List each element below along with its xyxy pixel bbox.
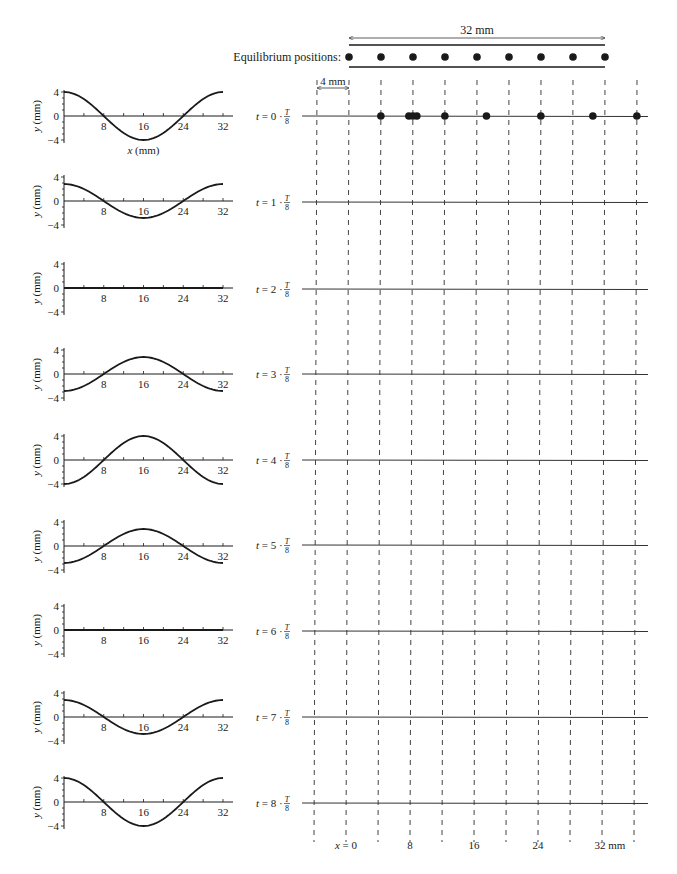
fraction-denominator: 8: [285, 290, 289, 299]
y-axis-label: y (mm): [30, 530, 43, 563]
y-tick-label: 0: [54, 195, 60, 207]
x-tick-label: 24: [178, 806, 190, 818]
x-tick-label: 24: [178, 292, 190, 304]
x-axis-label: x (mm): [126, 144, 159, 157]
x-tick-label: 32: [218, 292, 229, 304]
x-tick-label: 32: [218, 378, 229, 390]
x-tick-label: 32: [218, 634, 229, 646]
dashed-guide-line: [474, 80, 477, 842]
x-tick-label: 32: [218, 205, 229, 217]
dashed-guide-line: [314, 80, 317, 842]
wave-plots: 40−48162432y (mm)x (mm)40−48162432y (mm)…: [30, 86, 233, 832]
x-tick-label: 8: [101, 806, 107, 818]
y-axis-label: y (mm): [30, 100, 43, 133]
y-axis-label: y (mm): [30, 272, 43, 305]
wave-diagram: 32 mmEquilibrium positions:4 mm t = 0 · …: [0, 0, 677, 874]
fraction-numerator: T: [285, 709, 290, 718]
y-tick-label: 4: [54, 772, 60, 784]
bottom-axis-label: 32 mm: [595, 839, 626, 851]
time-rows: t = 0 · T8t = 1 · T8t = 2 · T8t = 3 · T8…: [256, 108, 648, 813]
fraction-denominator: 8: [285, 203, 289, 212]
time-label: t = 3 ·: [256, 368, 283, 380]
equilibrium-dot: [441, 53, 449, 61]
time-label: t = 2 ·: [256, 283, 283, 295]
time-label: t = 7 ·: [256, 711, 283, 723]
time-row-1: t = 1 · T8: [256, 194, 648, 212]
row-baseline: [302, 717, 648, 718]
fraction-denominator: 8: [285, 546, 289, 555]
x-tick-label: 32: [218, 550, 229, 562]
row-baseline: [302, 289, 648, 290]
dashed-guide-line: [506, 80, 509, 842]
x-tick-label: 8: [101, 550, 107, 562]
spacing-label: 4 mm: [320, 75, 346, 87]
fraction-denominator: 8: [285, 117, 289, 126]
y-axis-label: y (mm): [30, 786, 43, 819]
time-label: t = 1 ·: [256, 196, 283, 208]
equilibrium-label: Equilibrium positions:: [233, 50, 341, 64]
y-tick-label: 0: [54, 110, 60, 122]
x-tick-label: 24: [178, 634, 190, 646]
y-tick-label: 4: [54, 344, 60, 356]
y-tick-label: 0: [54, 282, 60, 294]
wave-plot-0: 40−48162432y (mm)x (mm): [30, 86, 233, 157]
dashed-guide-line: [634, 80, 637, 842]
wave-plot-3: 40−48162432y (mm): [30, 344, 233, 404]
y-axis-label: y (mm): [30, 614, 43, 647]
length-label: 32 mm: [460, 23, 494, 37]
wave-plot-4: 40−48162432y (mm): [30, 430, 233, 490]
bottom-axis-label: 8: [407, 839, 413, 851]
bottom-axis-label: x = 0: [334, 839, 358, 851]
row-baseline: [302, 202, 648, 203]
y-tick-label: −4: [47, 219, 59, 231]
wave-plot-7: 40−48162432y (mm): [30, 687, 233, 747]
x-tick-label: 24: [178, 120, 190, 132]
y-tick-label: −4: [47, 478, 59, 490]
y-tick-label: 0: [54, 540, 60, 552]
x-tick-label: 8: [101, 721, 107, 733]
particle-dot: [413, 112, 421, 120]
equilibrium-header: 32 mmEquilibrium positions:4 mm: [233, 23, 608, 88]
x-tick-label: 8: [101, 205, 107, 217]
x-tick-label: 16: [138, 550, 150, 562]
fraction-numerator: T: [285, 366, 290, 375]
time-label: t = 6 ·: [256, 625, 283, 637]
x-tick-label: 32: [218, 806, 229, 818]
y-tick-label: 4: [54, 687, 60, 699]
fraction-numerator: T: [285, 623, 290, 632]
y-tick-label: 4: [54, 258, 60, 270]
y-tick-label: −4: [47, 735, 59, 747]
time-label: t = 5 ·: [256, 539, 283, 551]
dashed-guide-line: [346, 80, 349, 842]
particle-dot: [483, 112, 491, 120]
equilibrium-dot: [569, 53, 577, 61]
equilibrium-dot: [505, 53, 513, 61]
fraction-denominator: 8: [285, 718, 289, 727]
x-tick-label: 8: [101, 634, 107, 646]
wave-plot-6: 40−48162432y (mm): [30, 600, 233, 660]
y-tick-label: −4: [47, 564, 59, 576]
y-tick-label: 0: [54, 624, 60, 636]
x-tick-label: 16: [138, 205, 150, 217]
time-row-2: t = 2 · T8: [256, 281, 648, 299]
fraction-numerator: T: [285, 795, 290, 804]
y-tick-label: −4: [47, 648, 59, 660]
fraction-numerator: T: [285, 108, 290, 117]
fraction-denominator: 8: [285, 375, 289, 384]
particle-dot: [537, 112, 545, 120]
x-tick-label: 16: [138, 721, 150, 733]
x-tick-label: 24: [178, 464, 190, 476]
wave-plot-1: 40−48162432y (mm): [30, 171, 233, 231]
dashed-guide-line: [570, 80, 573, 842]
x-tick-label: 8: [101, 120, 107, 132]
y-tick-label: 0: [54, 454, 60, 466]
y-tick-label: 0: [54, 368, 60, 380]
x-tick-label: 32: [218, 464, 229, 476]
dashed-guide-line: [442, 80, 445, 842]
fraction-numerator: T: [285, 537, 290, 546]
time-label: t = 4 ·: [256, 454, 283, 466]
fraction-denominator: 8: [285, 461, 289, 470]
fraction-numerator: T: [285, 194, 290, 203]
y-tick-label: −4: [47, 392, 59, 404]
particle-dot: [377, 112, 385, 120]
